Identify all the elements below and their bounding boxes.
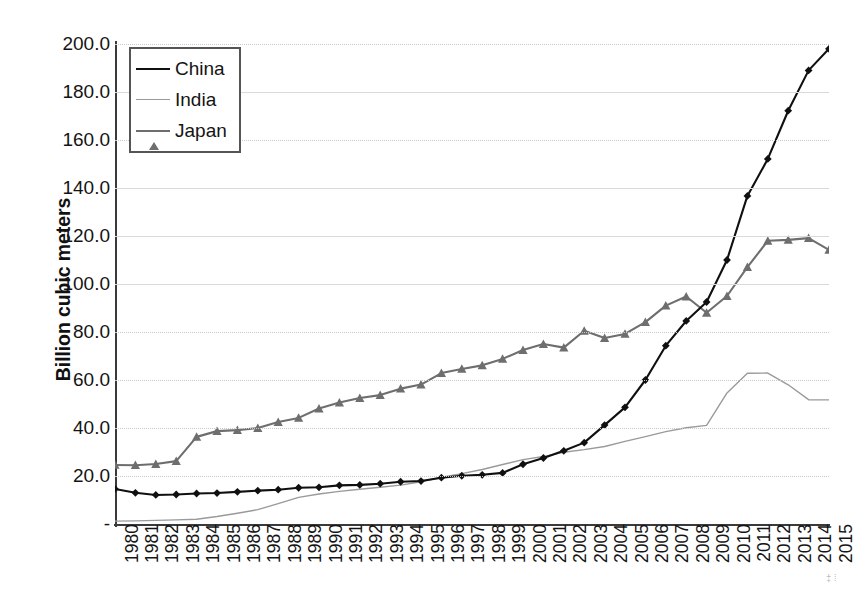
line-with-triangle-marker-icon (136, 122, 170, 140)
data-point-marker (764, 155, 772, 163)
x-axis-tick-label: 1996 (448, 524, 469, 594)
legend-label: Japan (175, 120, 227, 142)
data-point-marker (132, 489, 140, 497)
x-axis-tick-label: 2003 (591, 524, 612, 594)
x-axis-tick-label: 2010 (734, 524, 755, 594)
x-axis-tick-label: 1995 (428, 524, 449, 594)
x-axis-tick-label: 1993 (387, 524, 408, 594)
data-point-marker (580, 326, 589, 335)
x-axis-tick-label: 1997 (468, 524, 489, 594)
x-axis-tick-labels: 1980198119821983198419851986198719881989… (115, 528, 829, 598)
x-axis-tick-label: 1987 (264, 524, 285, 594)
data-point-marker (234, 488, 242, 496)
y-axis-tick-label: 140.0 (20, 177, 110, 199)
gridline (115, 236, 829, 237)
x-axis-tick-label: 2006 (652, 524, 673, 594)
x-axis-tick-label: 2005 (632, 524, 653, 594)
x-axis-tick-label: 1980 (122, 524, 143, 594)
gridline (115, 188, 829, 189)
y-axis-tick-label: 60.0 (20, 369, 110, 391)
data-point-marker (315, 483, 323, 491)
data-point-marker (295, 484, 303, 492)
data-point-marker (115, 485, 119, 493)
y-axis-tick-label: 100.0 (20, 273, 110, 295)
x-axis-tick-label: 1982 (162, 524, 183, 594)
x-axis-tick-label: 1981 (142, 524, 163, 594)
gridline (115, 428, 829, 429)
y-axis-tick-label: 200.0 (20, 33, 110, 55)
x-axis-tick-label: 1998 (489, 524, 510, 594)
x-axis-tick-label: 1986 (244, 524, 265, 594)
y-axis-tick-label: 120.0 (20, 225, 110, 247)
x-axis-tick-label: 2011 (754, 524, 775, 594)
x-axis-tick-label: 1990 (326, 524, 347, 594)
x-axis-tick-label: 2001 (550, 524, 571, 594)
scan-artifact: ‡⁞ (826, 574, 839, 584)
data-point-marker (213, 489, 221, 497)
series-line (115, 373, 829, 521)
series-india (115, 373, 829, 521)
y-axis-tick-label: 180.0 (20, 81, 110, 103)
x-axis-tick-label: 2008 (693, 524, 714, 594)
data-point-marker (478, 471, 486, 479)
data-point-marker (274, 486, 282, 494)
x-axis-tick-label: 1983 (183, 524, 204, 594)
x-axis-tick-label: 1984 (203, 524, 224, 594)
x-axis-tick-label: 2004 (611, 524, 632, 594)
chart-legend: China India Japan (129, 47, 241, 153)
chart-figure: Billion cubic meters -20.040.060.080.010… (0, 0, 867, 601)
y-axis-tick-label: 80.0 (20, 321, 110, 343)
data-point-marker (172, 491, 180, 499)
legend-label: China (175, 58, 225, 80)
gridline (115, 380, 829, 381)
data-point-marker (723, 256, 731, 264)
y-axis-tick-label: 20.0 (20, 465, 110, 487)
legend-item-india: India (131, 84, 239, 115)
x-axis-tick-label: 1994 (407, 524, 428, 594)
legend-item-japan: Japan (131, 115, 239, 146)
data-point-marker (519, 460, 527, 468)
gridline (115, 44, 829, 45)
data-point-marker (193, 490, 201, 498)
data-point-marker (682, 292, 691, 301)
gridline (115, 476, 829, 477)
y-axis-tick-label: 160.0 (20, 129, 110, 151)
gridline (115, 284, 829, 285)
gridline (115, 332, 829, 333)
data-point-marker (356, 481, 364, 489)
plain-line-icon (136, 91, 170, 109)
x-axis-tick-label: 1985 (224, 524, 245, 594)
x-axis-tick-label: 2013 (795, 524, 816, 594)
data-point-marker (336, 481, 344, 489)
y-axis-tick-label: 40.0 (20, 417, 110, 439)
legend-label: India (175, 89, 216, 111)
x-axis-tick-label: 1991 (346, 524, 367, 594)
x-axis-tick-label: 1992 (366, 524, 387, 594)
data-point-marker (152, 491, 160, 499)
data-point-marker (254, 487, 262, 495)
data-point-marker (744, 192, 752, 200)
data-point-marker (417, 477, 425, 485)
y-axis-tick-label: - (20, 513, 110, 535)
data-point-marker (438, 474, 446, 482)
x-axis-tick-label: 2002 (570, 524, 591, 594)
x-axis-tick-label: 1988 (285, 524, 306, 594)
x-axis-tick-label: 2009 (713, 524, 734, 594)
data-point-marker (784, 107, 792, 115)
x-axis-tick-label: 1989 (305, 524, 326, 594)
legend-item-china: China (131, 53, 239, 84)
x-axis-tick-label: 2012 (774, 524, 795, 594)
x-axis-tick-label: 1999 (509, 524, 530, 594)
line-with-diamond-marker-icon (136, 60, 170, 78)
x-axis-tick-label: 2000 (530, 524, 551, 594)
x-axis-tick-label: 2007 (672, 524, 693, 594)
y-axis-tick-labels: -20.040.060.080.0100.0120.0140.0160.0180… (14, 44, 110, 524)
